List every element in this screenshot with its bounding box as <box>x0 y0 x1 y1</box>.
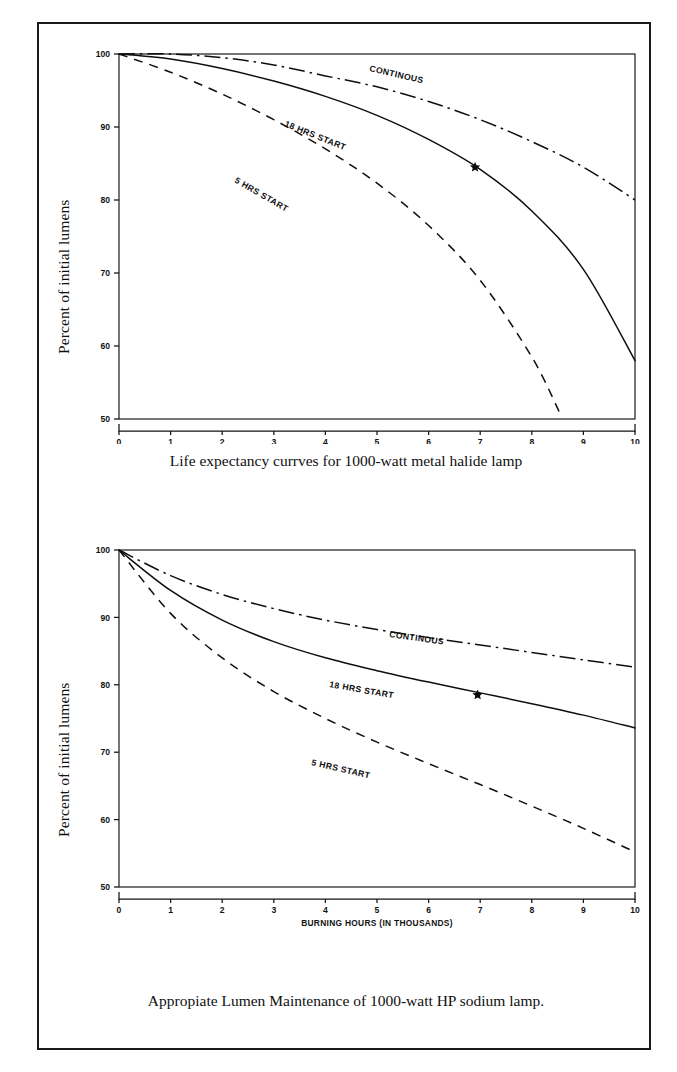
x-tick-label: 7 <box>478 905 483 915</box>
x-tick-label: 4 <box>323 905 328 915</box>
curve-18-hrs-start <box>119 54 635 361</box>
x-tick-label: 3 <box>271 437 276 444</box>
curve-label-continous: CONTINOUS <box>369 63 425 85</box>
x-tick-label: 2 <box>220 905 225 915</box>
y-tick-label: 80 <box>100 680 110 690</box>
x-tick-label: 2 <box>220 437 225 444</box>
x-tick-label: 3 <box>271 905 276 915</box>
curve-label-5-hrs-start: 5 HRS START <box>311 757 372 780</box>
plot-area-hp-sodium: 5060708090100012345678910BURNING HOURS (… <box>39 522 653 972</box>
x-tick-label: 1 <box>168 905 173 915</box>
y-tick-label: 100 <box>96 545 111 555</box>
x-tick-label: 8 <box>529 437 534 444</box>
chart-caption-metal-halide: Life expectancy currves for 1000-watt me… <box>39 452 653 470</box>
y-tick-label: 60 <box>100 815 110 825</box>
x-tick-label: 7 <box>478 437 483 444</box>
y-tick-label: 90 <box>100 613 110 623</box>
plot-frame <box>119 550 635 887</box>
curve-label-18-hrs-start: 18 HRS START <box>329 679 395 700</box>
chart-hp-sodium: Percent of initial lumens 50607080901000… <box>39 522 653 1052</box>
series-group <box>119 54 635 414</box>
y-tick-label: 50 <box>100 882 110 892</box>
y-tick-label: 80 <box>100 195 110 205</box>
y-tick-label: 70 <box>100 268 110 278</box>
chart-metal-halide: Percent of initial lumens 50607080901000… <box>39 24 653 479</box>
x-tick-label: 0 <box>117 905 122 915</box>
x-axis-title: BURNING HOURS (IN THOUSANDS) <box>301 918 453 928</box>
x-axis-line <box>119 892 635 899</box>
x-tick-label: 0 <box>117 437 122 444</box>
x-tick-label: 6 <box>426 437 431 444</box>
x-tick-label: 10 <box>630 905 640 915</box>
curve-label-continous: CONTINOUS <box>389 629 445 647</box>
series-group <box>119 550 635 852</box>
x-tick-label: 5 <box>375 905 380 915</box>
curve-5-hrs-start <box>119 54 560 414</box>
curve-5-hrs-start <box>119 550 635 852</box>
curve-label-18-hrs-start: 18 HRS START <box>283 119 348 153</box>
x-tick-label: 6 <box>426 905 431 915</box>
x-tick-label: 10 <box>630 437 640 444</box>
figure-outer-frame: Percent of initial lumens 50607080901000… <box>37 22 651 1050</box>
curve-continous <box>119 54 635 200</box>
x-tick-label: 4 <box>323 437 328 444</box>
y-tick-label: 60 <box>100 341 110 351</box>
x-tick-label: 1 <box>168 437 173 444</box>
curve-continous <box>119 550 635 667</box>
x-tick-label: 9 <box>581 437 586 444</box>
x-tick-label: 5 <box>375 437 380 444</box>
curve-18-hrs-start <box>119 550 635 728</box>
chart-caption-hp-sodium: Appropiate Lumen Maintenance of 1000-wat… <box>39 992 653 1010</box>
y-tick-label: 90 <box>100 122 110 132</box>
y-tick-label: 50 <box>100 414 110 424</box>
x-tick-label: 9 <box>581 905 586 915</box>
plot-area-metal-halide: 5060708090100012345678910BURNING HOURS (… <box>39 24 653 444</box>
curve-label-5-hrs-start: 5 HRS START <box>233 175 290 214</box>
y-tick-label: 70 <box>100 747 110 757</box>
y-tick-label: 100 <box>96 49 111 59</box>
x-axis-line <box>119 424 635 431</box>
x-tick-label: 8 <box>529 905 534 915</box>
